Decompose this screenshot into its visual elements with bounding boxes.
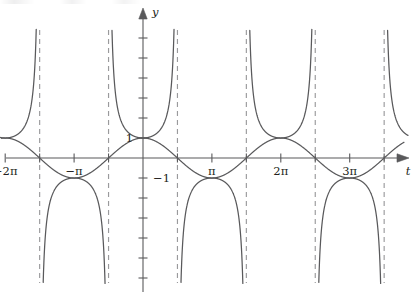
y-axis-name: y: [151, 5, 159, 19]
x-axis-label-3: 2π: [273, 164, 288, 178]
x-axis-label-0: −2π: [0, 164, 18, 178]
x-axis-name: t: [406, 164, 411, 178]
secant-branch-2: [43, 178, 105, 283]
x-axis-label-1: −π: [65, 164, 83, 178]
plot-canvas: −2π−ππ2π3π1−1ty: [0, 0, 414, 300]
secant-graph-figure: −2π−ππ2π3π1−1ty: [0, 0, 414, 300]
curve-group: [0, 29, 408, 283]
x-axis-label-2: π: [208, 164, 216, 178]
secant-branch-6: [319, 178, 381, 283]
y-axis-label-1: −1: [153, 171, 170, 185]
secant-branch-5: [250, 29, 312, 138]
y-axis-label-0: 1: [126, 131, 133, 145]
axes-group: [6, 8, 409, 292]
secant-branch-4: [181, 178, 243, 283]
y-axis-arrow: [139, 8, 147, 19]
secant-branch-7: [388, 30, 408, 135]
secant-branch-1: [0, 29, 36, 138]
x-axis-label-4: 3π: [342, 164, 357, 178]
x-axis-arrow: [397, 154, 409, 162]
